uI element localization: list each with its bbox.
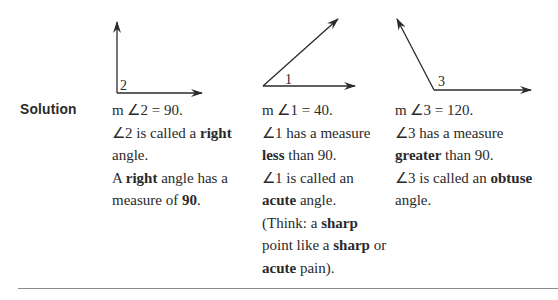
text-line: ∠3 has a measure — [395, 122, 532, 145]
text-run: pain). — [296, 260, 334, 276]
text-run: . — [197, 192, 201, 208]
text-line: ∠2 is called a right — [112, 122, 232, 145]
text-run: A — [112, 170, 126, 186]
text-line: angle. — [112, 144, 232, 167]
solution-heading: Solution — [20, 100, 77, 117]
text-run: than 90. — [441, 147, 493, 163]
text-run: ∠2 is called a — [112, 125, 200, 141]
bold-term: sharp — [321, 215, 358, 231]
right-angle-diagram: 2 — [117, 22, 202, 93]
acute-angle-diagram: 1 — [263, 19, 355, 87]
obtuse-angle-explanation: m ∠3 = 120.∠3 has a measuregreater than … — [395, 99, 532, 212]
angle-1-label: 1 — [285, 72, 292, 87]
text-line: measure of 90. — [112, 189, 232, 212]
bold-term: acute — [262, 260, 296, 276]
text-run: angle has a — [157, 170, 227, 186]
text-line: ∠1 has a measure — [262, 122, 386, 145]
text-line: A right angle has a — [112, 167, 232, 190]
text-run: measure of — [112, 192, 182, 208]
bold-term: right — [126, 170, 158, 186]
angle-diagrams: 2 1 3 — [0, 0, 558, 100]
bold-term: obtuse — [490, 170, 532, 186]
angle-2-label: 2 — [120, 78, 127, 93]
text-run: ∠1 has a measure — [262, 125, 370, 141]
angle-3-label: 3 — [438, 74, 445, 89]
bold-term: greater — [395, 147, 441, 163]
text-line: greater than 90. — [395, 144, 532, 167]
text-line: point like a sharp or — [262, 234, 386, 257]
text-line: angle. — [395, 189, 532, 212]
obtuse-angle-diagram: 3 — [397, 19, 531, 90]
text-run: m ∠2 = 90. — [112, 102, 183, 118]
bold-term: less — [262, 147, 285, 163]
bold-term: sharp — [333, 237, 370, 253]
text-run: angle. — [395, 192, 431, 208]
text-line: acute pain). — [262, 257, 386, 280]
text-run: m ∠1 = 40. — [262, 102, 333, 118]
text-run: ∠1 is called an — [262, 170, 354, 186]
bold-term: 90 — [182, 192, 197, 208]
right-angle-explanation: m ∠2 = 90.∠2 is called a rightangle.A ri… — [112, 99, 232, 212]
text-line: m ∠2 = 90. — [112, 99, 232, 122]
text-line: (Think: a sharp — [262, 212, 386, 235]
bold-term: acute — [262, 192, 296, 208]
text-line: ∠3 is called an obtuse — [395, 167, 532, 190]
text-run: (Think: a — [262, 215, 321, 231]
text-line: m ∠1 = 40. — [262, 99, 386, 122]
text-run: ∠3 is called an — [395, 170, 490, 186]
text-run: angle. — [296, 192, 336, 208]
text-line: acute angle. — [262, 189, 386, 212]
text-line: m ∠3 = 120. — [395, 99, 532, 122]
acute-angle-explanation: m ∠1 = 40.∠1 has a measureless than 90.∠… — [262, 99, 386, 279]
text-run: or — [370, 237, 386, 253]
text-line: ∠1 is called an — [262, 167, 386, 190]
text-line: less than 90. — [262, 144, 386, 167]
bold-term: right — [200, 125, 232, 141]
text-run: ∠3 has a measure — [395, 125, 503, 141]
text-run: than 90. — [285, 147, 337, 163]
text-run: point like a — [262, 237, 333, 253]
text-run: m ∠3 = 120. — [395, 102, 473, 118]
text-run: angle. — [112, 147, 148, 163]
bottom-divider — [18, 288, 558, 289]
